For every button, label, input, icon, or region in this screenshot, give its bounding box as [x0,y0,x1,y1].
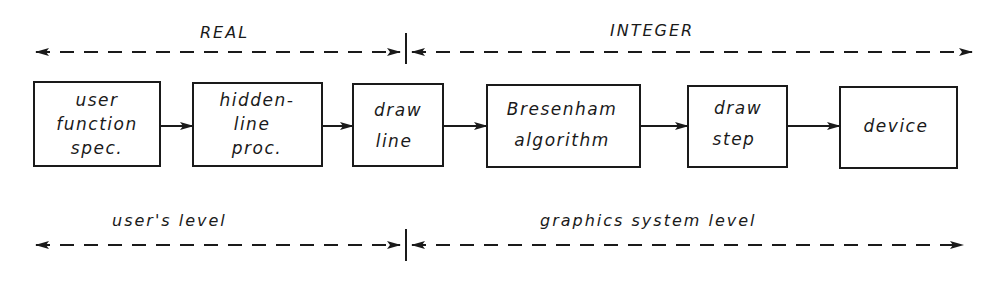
box-text: draw [374,100,422,120]
box-text: step [713,129,756,149]
box-text: draw [714,98,762,118]
box-draw-step: draw step [688,86,787,167]
bottom-scale: user's level graphics system level [36,211,963,261]
graphics-system-level-label: graphics system level [540,211,756,230]
box-draw-line: draw line [353,84,443,166]
pipeline-diagram: REAL INTEGER user function spec. hidden-… [0,0,998,292]
box-text: line [376,131,413,151]
box-hidden-line-proc: hidden- line proc. [193,83,322,166]
real-label: REAL [200,23,249,42]
box-text: spec. [71,138,123,158]
users-level-label: user's level [112,211,227,230]
box-text: line [234,114,271,134]
box-text: hidden- [220,90,295,110]
box-user-function-spec: user function spec. [34,82,160,166]
box-text: proc. [231,138,282,158]
top-scale: REAL INTEGER [36,21,972,64]
box-text: algorithm [514,130,610,150]
box-text: function [56,114,137,134]
box-text: user [75,90,118,110]
box-device: device [840,87,957,168]
box-text: Bresenham [507,99,617,119]
integer-label: INTEGER [610,21,694,40]
box-bresenham-algorithm: Bresenham algorithm [487,85,640,167]
box-text: device [864,116,929,136]
